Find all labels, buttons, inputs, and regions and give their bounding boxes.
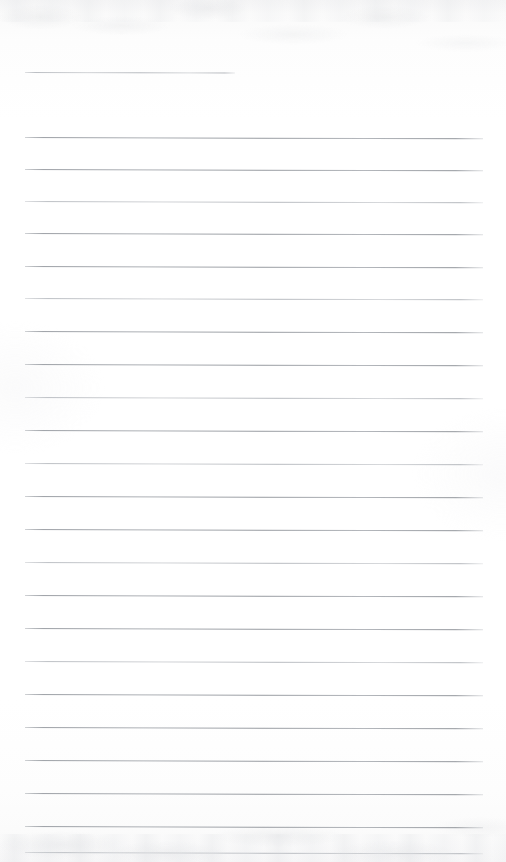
ruled-line: [25, 298, 483, 300]
top-edge-smudge: [0, 0, 506, 22]
ruled-line: [25, 826, 483, 828]
ruled-line: [25, 628, 483, 630]
ruled-line: [25, 694, 483, 696]
bottom-edge-smudge: [0, 834, 506, 862]
scanned-page: Scanned blank ruled writing paper, no ha…: [0, 0, 506, 862]
ruled-line: [25, 463, 483, 465]
ruled-line: [25, 793, 483, 795]
ruled-line: [25, 72, 235, 74]
ruled-line: [25, 852, 483, 854]
ruled-line: [25, 727, 483, 729]
ruled-line: [25, 760, 483, 762]
ruled-line: [25, 169, 483, 171]
ruled-line: [25, 496, 483, 498]
ruled-line: [25, 661, 483, 663]
ruled-line: [25, 430, 483, 432]
ruled-line: [25, 364, 483, 366]
ruled-line: [25, 562, 483, 564]
ruled-line: [25, 137, 483, 139]
ruled-line: [25, 233, 483, 235]
ruled-line: [25, 595, 483, 597]
paper-background: [0, 0, 506, 862]
ruled-line: [25, 266, 483, 268]
ruled-line: [25, 201, 483, 203]
ruled-line: [25, 397, 483, 399]
ruled-lines-group: [0, 0, 506, 862]
ruled-line: [25, 331, 483, 333]
scan-texture-overlay: [0, 0, 506, 862]
ruled-line: [25, 529, 483, 531]
